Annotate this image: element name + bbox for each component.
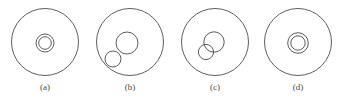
inner-ring-inner: [291, 36, 305, 50]
panel-b: [97, 9, 164, 76]
panel-a: [12, 9, 79, 76]
outer-circle: [97, 9, 164, 76]
large-inner-circle: [116, 32, 138, 54]
outer-circle: [182, 9, 249, 76]
panel-label-c: (c): [195, 82, 235, 93]
outer-circle: [265, 9, 332, 76]
panel-c: [182, 9, 249, 76]
panel-label-d: (d): [278, 82, 318, 93]
panel-label-b: (b): [110, 82, 150, 93]
small-inner-circle: [105, 51, 121, 67]
inner-ring-inner: [39, 37, 52, 50]
panel-d: [265, 9, 332, 76]
large-inner-circle: [204, 32, 224, 52]
panel-label-a: (a): [25, 82, 65, 93]
outer-circle: [12, 9, 79, 76]
circle-relations-figure: (a)(b)(c)(d): [0, 0, 339, 101]
